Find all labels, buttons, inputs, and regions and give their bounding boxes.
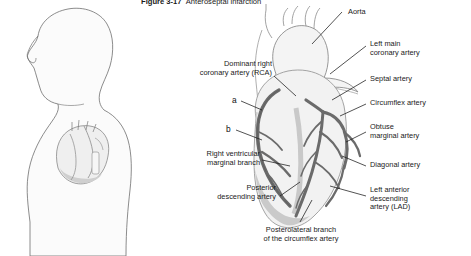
inset-vessel-trunk bbox=[92, 152, 99, 174]
marker-a: a bbox=[232, 95, 237, 105]
figure-caption: Anteroseptal infarction bbox=[186, 0, 262, 6]
label-septal-artery: Septal artery bbox=[370, 75, 412, 84]
label-lad: Left anterior descending artery (LAD) bbox=[370, 186, 410, 212]
figure-number: Figure 3-17 bbox=[141, 0, 182, 6]
label-posterior-descending: Posterior descending artery bbox=[168, 184, 276, 201]
figure-title: Figure 3-17 Anteroseptal infarction bbox=[141, 0, 261, 6]
label-left-main: Left main coronary artery bbox=[370, 40, 420, 57]
label-diagonal-artery: Diagonal artery bbox=[370, 161, 420, 170]
label-aorta: Aorta bbox=[348, 8, 366, 17]
label-obtuse-marginal: Obtuse marginal artery bbox=[370, 123, 419, 140]
label-rv-marginal-branch: Right ventricular marginal branch bbox=[148, 150, 260, 167]
marker-b: b bbox=[226, 124, 231, 134]
label-posterolateral-branch: Posterolateral branch of the circumflex … bbox=[228, 226, 374, 243]
label-circumflex: Circumflex artery bbox=[370, 99, 426, 108]
label-rca: Dominant right coronary artery (RCA) bbox=[150, 60, 272, 77]
